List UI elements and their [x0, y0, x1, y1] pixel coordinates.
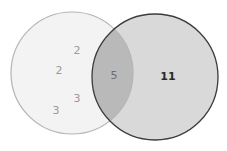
left-value-3: 3: [74, 93, 81, 104]
intersection-value: 5: [111, 70, 118, 81]
left-value-4: 3: [53, 105, 60, 116]
right-only-value: 11: [160, 71, 175, 82]
left-value-1: 2: [74, 45, 81, 56]
left-value-2: 2: [56, 65, 63, 76]
